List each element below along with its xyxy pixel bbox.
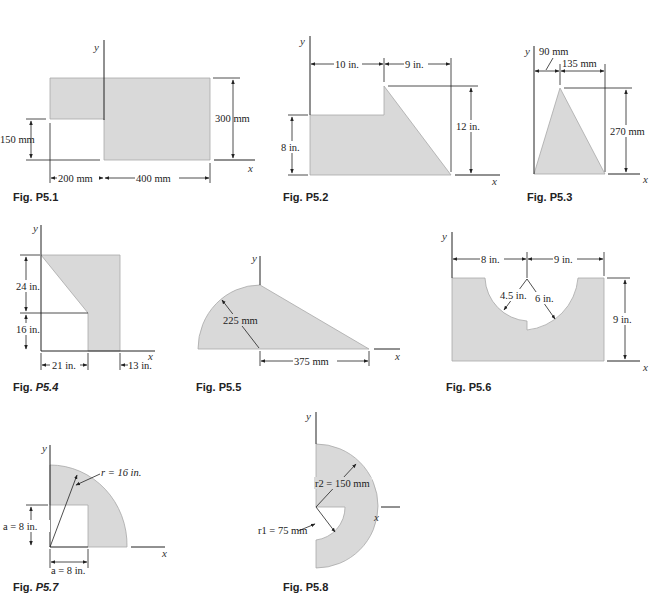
x-axis-label: x (161, 547, 167, 559)
y-axis-label: y (41, 442, 47, 454)
caption-p5-3: Fig. P5.3 (527, 191, 572, 203)
caption-p5-2: Fig. P5.2 (283, 191, 328, 203)
y-axis-label: y (524, 45, 530, 57)
dim-large-radius: 6 in. (535, 293, 554, 304)
figures-page: y x 300 mm 150 mm 200 mm 400 mm Fig. P5.… (0, 0, 665, 605)
composite-rectangle-shape (50, 78, 210, 160)
dim-upper-height: 24 in. (16, 281, 40, 292)
dim-right-width: 400 mm (136, 173, 171, 184)
figure-p5-2: y x 10 in. 9 in. 12 in. 8 in. Fig. P5.2 (281, 35, 500, 203)
x-axis-label: x (394, 350, 400, 362)
dim-right-width: 13 in. (128, 360, 152, 371)
dim-left-height: 8 in. (281, 142, 300, 153)
figure-p5-4: y x 24 in. 16 in. 21 in. 13 in. Fig. P5.… (13, 222, 155, 393)
figure-p5-6: y x 8 in. 9 in. 4.5 in. 6 in. 9 in. Fig.… (441, 230, 648, 393)
dim-right-width: 9 in. (405, 59, 424, 70)
dim-triangle-base: 375 mm (294, 356, 329, 367)
caption-p5-7: Fig. P5.7 (13, 581, 59, 593)
dim-right-width: 9 in. (554, 254, 573, 265)
dim-radius: 225 mm (223, 315, 258, 326)
dim-radius: r = 16 in. (101, 467, 141, 478)
y-axis-label: y (251, 252, 257, 264)
figure-p5-1: y x 300 mm 150 mm 200 mm 400 mm Fig. P5.… (0, 40, 255, 203)
y-axis-label: y (93, 41, 99, 53)
y-axis-label: y (441, 230, 447, 242)
dim-left-width: 8 in. (481, 254, 500, 265)
caption-p5-6: Fig. P5.6 (446, 381, 491, 393)
dim-a-horizontal: a = 8 in. (51, 565, 86, 576)
dim-left-width: 10 in. (335, 59, 359, 70)
x-axis-label: x (491, 175, 497, 187)
caption-p5-4: Fig. P5.4 (13, 381, 58, 393)
dim-total-height: 12 in. (456, 121, 480, 132)
dim-apex-offset: 90 mm (539, 46, 568, 57)
dim-height: 270 mm (610, 126, 645, 137)
x-axis-label: x (373, 511, 379, 523)
caption-p5-5: Fig. P5.5 (196, 381, 241, 393)
dim-left-width: 21 in. (52, 360, 76, 371)
rectangle-with-semicircle-cutouts-shape (452, 278, 604, 361)
caption-p5-1: Fig. P5.1 (13, 191, 58, 203)
y-axis-label: y (299, 35, 305, 47)
x-axis-label: x (642, 361, 648, 373)
dim-height: 300 mm (215, 113, 250, 124)
caption-p5-8: Fig. P5.8 (283, 581, 328, 593)
dim-r1: r1 = 75 mm (258, 525, 307, 536)
dim-a-vertical: a = 8 in. (3, 521, 38, 532)
figure-p5-8: y x r2 = 150 mm r1 = 75 mm Fig. P5.8 (258, 410, 400, 593)
figure-p5-7: y x r = 16 in. a = 8 in. a = 8 in. Fig. … (2, 442, 167, 593)
dim-notch-height: 150 mm (0, 134, 35, 145)
y-axis-label: y (32, 222, 38, 234)
figure-p5-5: y x 225 mm 375 mm Fig. P5.5 (196, 252, 400, 393)
y-axis-label: y (305, 410, 311, 422)
dim-r2: r2 = 150 mm (315, 478, 370, 489)
x-axis-label: x (247, 162, 253, 174)
dim-height: 9 in. (613, 314, 632, 325)
dim-lower-height: 16 in. (16, 324, 40, 335)
trapezoid-shape (310, 86, 451, 175)
dim-small-radius: 4.5 in. (500, 290, 527, 301)
triangle-shape (534, 88, 605, 174)
dim-left-width: 200 mm (58, 173, 93, 184)
trapezoid-column-shape (41, 255, 120, 351)
x-axis-label: x (642, 173, 648, 185)
figure-p5-3: y x 90 mm 135 mm 270 mm Fig. P5.3 (524, 45, 651, 203)
dim-right-width: 135 mm (562, 58, 597, 69)
half-ring-shape (316, 444, 378, 568)
